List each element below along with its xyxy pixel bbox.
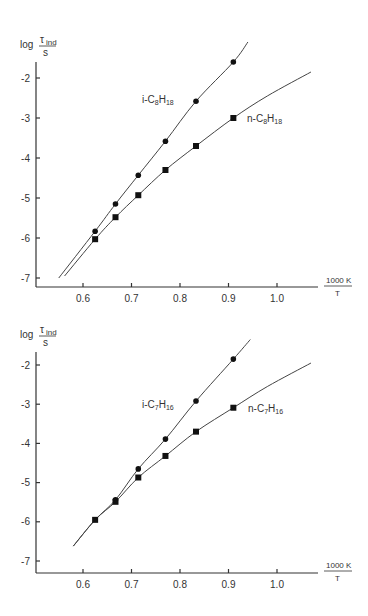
x-tick-label: 0.8: [173, 579, 187, 590]
series-n-C7H16: n-C7H16: [73, 363, 311, 546]
y-tick-label: -2: [21, 360, 30, 371]
x-axis-denominator: T: [335, 289, 340, 298]
x-tick-label: 0.8: [173, 293, 187, 304]
x-tick-label: 0.9: [222, 579, 236, 590]
data-point-circle: [113, 201, 119, 207]
data-point-square: [193, 429, 199, 435]
data-point-square: [162, 167, 168, 173]
y-axis-title: log τ ind s: [20, 324, 57, 348]
series-i-C8H18: i-C8H18: [59, 42, 248, 278]
data-point-square: [135, 475, 141, 481]
data-point-square: [92, 517, 98, 523]
data-point-circle: [193, 98, 199, 104]
data-point-square: [135, 192, 141, 198]
y-tick-label: -7: [21, 273, 30, 284]
data-point-square: [112, 214, 118, 220]
y-axis-log-text: log: [20, 329, 33, 340]
data-point-square: [193, 143, 199, 149]
y-tick-label: -5: [21, 477, 30, 488]
x-tick-label: 0.6: [76, 293, 90, 304]
x-tick-label: 1.0: [270, 293, 284, 304]
y-tick-label: -7: [21, 556, 30, 567]
y-axis-numerator: τ: [40, 34, 44, 45]
y-tick-label: -6: [21, 516, 30, 527]
y-tick-label: -6: [21, 233, 30, 244]
data-point-circle: [135, 172, 141, 178]
x-tick-label: 0.7: [125, 293, 139, 304]
series-label: n-C8H18: [247, 113, 282, 125]
x-tick-label: 0.7: [125, 579, 139, 590]
y-tick-label: -2: [21, 73, 30, 84]
y-tick-label: -5: [21, 193, 30, 204]
data-point-square: [230, 115, 236, 121]
data-point-square: [162, 453, 168, 459]
x-axis-numerator: 1000 K: [326, 276, 352, 285]
y-axis-log-text: log: [20, 39, 33, 50]
data-point-circle: [231, 356, 237, 362]
data-point-circle: [135, 466, 141, 472]
y-axis-denominator: s: [43, 47, 48, 58]
x-tick-label: 1.0: [270, 579, 284, 590]
series-curve: [73, 363, 311, 546]
chart-panel-c7: log τ ind s 1000 K T -2-3-4-5-6-70.60.70…: [20, 324, 352, 590]
series-label: n-C7H16: [248, 403, 283, 415]
x-tick-label: 0.6: [76, 579, 90, 590]
figure: log τ ind s 1000 K T -2-3-4-5-6-70.60.70…: [0, 0, 368, 616]
series-label: i-C8H18: [142, 94, 174, 106]
data-point-circle: [193, 398, 199, 404]
data-point-circle: [163, 138, 169, 144]
y-axis-title: log τ ind s: [20, 34, 57, 58]
data-point-circle: [163, 436, 169, 442]
data-point-circle: [92, 228, 98, 234]
x-tick-label: 0.9: [222, 293, 236, 304]
data-point-circle: [231, 59, 237, 65]
y-tick-label: -3: [21, 113, 30, 124]
series-label: i-C7H16: [142, 399, 174, 411]
y-tick-label: -4: [21, 438, 30, 449]
y-axis-denominator: s: [43, 337, 48, 348]
y-axis-numerator: τ: [40, 324, 44, 335]
series-curve: [65, 72, 311, 276]
series-n-C8H18: n-C8H18: [65, 72, 311, 276]
x-axis-denominator: T: [335, 574, 340, 583]
x-axis-title: 1000 K T: [324, 276, 352, 298]
x-axis-title: 1000 K T: [324, 561, 352, 583]
data-point-square: [230, 405, 236, 411]
y-tick-label: -4: [21, 153, 30, 164]
chart-panel-c8: log τ ind s 1000 K T -2-3-4-5-6-70.60.70…: [20, 34, 352, 304]
x-axis-numerator: 1000 K: [326, 561, 352, 570]
data-point-square: [92, 236, 98, 242]
series-curve: [59, 42, 248, 278]
y-tick-label: -3: [21, 399, 30, 410]
data-point-square: [112, 499, 118, 505]
